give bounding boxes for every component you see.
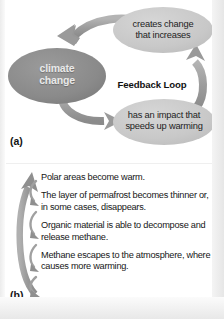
panel-a-feedback-loop-diagram: climate change creates change that incre… — [0, 0, 224, 163]
list-item: Organic material is able to decompose an… — [41, 220, 217, 243]
arrow-step-3-to-4-icon — [30, 245, 39, 272]
scan-edge-left — [0, 0, 5, 319]
node-has-impact-label: has an impact that speeds up warming — [112, 110, 216, 132]
list-item: The layer of permafrost becomes thinner … — [41, 190, 217, 213]
node-creates-change-label: creates change that increases — [112, 19, 214, 41]
feedback-loop-title: Feedback Loop — [104, 79, 200, 90]
arrow-step-4-to-return-icon — [30, 277, 40, 297]
scan-edge-bottom — [0, 297, 224, 319]
cycle-steps-list: Polar areas become warm. The layer of pe… — [41, 172, 217, 273]
arrow-feedback-return-icon — [20, 172, 38, 294]
arrow-step-2-to-3-icon — [30, 212, 39, 239]
panel-a-label: (a) — [10, 135, 23, 147]
node-climate-change-label: climate change — [18, 62, 96, 87]
panel-b-permafrost-cycle: Polar areas become warm. The layer of pe… — [0, 163, 224, 319]
list-item: Methane escapes to the atmosphere, where… — [41, 250, 217, 273]
figure-page: climate change creates change that incre… — [0, 0, 224, 319]
scan-edge-right — [212, 0, 224, 319]
arrow-impact-to-creates-icon — [186, 44, 205, 108]
list-item: Polar areas become warm. — [41, 172, 217, 183]
